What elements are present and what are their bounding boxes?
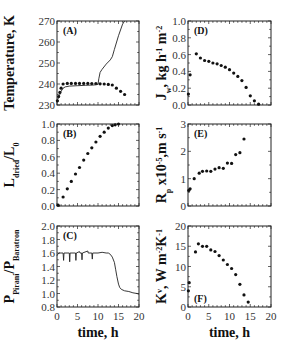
data-point bbox=[57, 204, 60, 207]
y-tick-label: 1.6 bbox=[41, 247, 55, 259]
y-tick-label: 240 bbox=[39, 78, 56, 90]
y-axis-title: Jw, kg h-1 m-2 bbox=[154, 26, 173, 100]
data-point bbox=[66, 187, 69, 190]
y-tick-label: 0.0 bbox=[41, 200, 55, 212]
data-point bbox=[107, 83, 110, 86]
data-point bbox=[99, 135, 102, 138]
x-axis-title: time, h bbox=[77, 325, 118, 340]
data-point bbox=[211, 61, 214, 64]
data-point bbox=[257, 103, 260, 106]
x-tick-label: 15 bbox=[113, 310, 125, 322]
data-point bbox=[70, 180, 73, 183]
panel-f: 0510152005101520time, hKv, W m-2K-1(F) bbox=[154, 220, 277, 340]
y-tick-label: 1.4 bbox=[41, 261, 55, 273]
data-point bbox=[218, 166, 221, 169]
data-point bbox=[189, 73, 192, 76]
data-point bbox=[198, 172, 201, 175]
y-tick-label: 0.8 bbox=[41, 134, 55, 146]
data-point bbox=[62, 82, 65, 85]
y-axis-title: Ldried/L0 bbox=[2, 143, 21, 188]
y-tick-label: 20 bbox=[175, 220, 187, 232]
data-point bbox=[187, 93, 190, 96]
data-point bbox=[230, 267, 233, 270]
data-point bbox=[197, 242, 200, 245]
data-point bbox=[99, 82, 102, 85]
data-point bbox=[195, 52, 198, 55]
data-point bbox=[111, 83, 114, 86]
y-tick-label: 0.8 bbox=[172, 32, 186, 44]
panel-label: (D) bbox=[194, 25, 208, 37]
y-tick-label: 260 bbox=[39, 36, 56, 48]
y-tick-label: 0.6 bbox=[41, 151, 55, 163]
data-point bbox=[228, 68, 231, 71]
data-point bbox=[205, 169, 208, 172]
series-line bbox=[57, 251, 139, 294]
data-point bbox=[193, 177, 196, 180]
data-point bbox=[234, 273, 237, 276]
data-point bbox=[207, 60, 210, 63]
data-point bbox=[86, 152, 89, 155]
y-tick-label: 0.4 bbox=[41, 167, 55, 179]
data-point bbox=[117, 122, 120, 125]
data-point bbox=[238, 283, 241, 286]
data-point bbox=[236, 75, 239, 78]
data-point bbox=[242, 293, 245, 296]
y-tick-label: 0.0 bbox=[172, 99, 186, 111]
data-point bbox=[194, 250, 197, 253]
x-tick-label: 5 bbox=[206, 310, 212, 322]
y-tick-label: 1.8 bbox=[41, 234, 55, 246]
panel-label: (A) bbox=[63, 25, 77, 37]
data-point bbox=[253, 99, 256, 102]
data-point bbox=[238, 151, 241, 154]
data-point bbox=[111, 124, 114, 127]
x-tick-label: 15 bbox=[245, 310, 257, 322]
y-tick-label: 270 bbox=[39, 15, 56, 27]
y-tick-label: 230 bbox=[39, 99, 56, 111]
data-point bbox=[245, 86, 248, 89]
y-tick-label: 250 bbox=[39, 57, 56, 69]
data-point bbox=[199, 56, 202, 59]
x-tick-label: 10 bbox=[224, 310, 236, 322]
data-point bbox=[90, 146, 93, 149]
x-tick-label: 0 bbox=[185, 310, 191, 322]
y-tick-label: 1 bbox=[181, 173, 187, 185]
data-point bbox=[240, 79, 243, 82]
y-axis-title: Rp x10-5,m s-1 bbox=[154, 127, 173, 204]
series-dots bbox=[187, 137, 245, 192]
y-tick-label: 0.6 bbox=[172, 49, 186, 61]
data-point bbox=[74, 82, 77, 85]
data-point bbox=[62, 195, 65, 198]
data-point bbox=[86, 82, 89, 85]
data-point bbox=[213, 250, 216, 253]
panel-label: (C) bbox=[63, 230, 77, 242]
y-tick-label: 10 bbox=[175, 261, 187, 273]
data-point bbox=[107, 127, 110, 130]
y-tick-label: 0.4 bbox=[172, 65, 186, 77]
y-tick-label: 0.2 bbox=[41, 184, 55, 196]
data-point bbox=[70, 82, 73, 85]
data-point bbox=[224, 66, 227, 69]
data-point bbox=[82, 82, 85, 85]
y-tick-label: 1.0 bbox=[172, 15, 186, 27]
data-point bbox=[205, 245, 208, 248]
y-tick-label: 2 bbox=[181, 145, 187, 157]
x-tick-label: 0 bbox=[54, 310, 60, 322]
data-point bbox=[115, 87, 118, 90]
x-tick-label: 20 bbox=[134, 310, 146, 322]
y-tick-label: 2.0 bbox=[41, 220, 55, 232]
data-point bbox=[226, 162, 229, 165]
data-point bbox=[114, 123, 117, 126]
panel-a: 230240250260270Temperature, K(A) bbox=[2, 15, 139, 111]
figure-canvas: 230240250260270Temperature, K(A) 0.00.20… bbox=[0, 0, 290, 351]
data-point bbox=[201, 245, 204, 248]
data-point bbox=[123, 93, 126, 96]
panel-label: (F) bbox=[194, 293, 207, 305]
data-point bbox=[213, 168, 216, 171]
data-point bbox=[230, 162, 233, 165]
data-point bbox=[209, 170, 212, 173]
panel-e: 0123Rp x10-5,m s-1(E) bbox=[154, 118, 271, 212]
data-point bbox=[218, 254, 221, 257]
data-point bbox=[189, 187, 192, 190]
panel-d: 0.00.20.40.60.81.0Jw, kg h-1 m-2(D) bbox=[154, 15, 271, 111]
data-point bbox=[103, 82, 106, 85]
